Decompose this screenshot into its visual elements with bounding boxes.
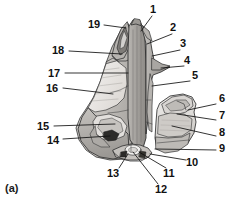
label-number-17: 17	[48, 68, 60, 79]
label-number-19: 19	[88, 19, 100, 30]
label-number-15: 15	[37, 121, 49, 132]
figure-caption: (a)	[5, 182, 18, 194]
leader-line-12	[133, 152, 158, 184]
leader-line-6	[188, 104, 216, 110]
leader-line-14	[63, 136, 110, 139]
leader-line-5	[152, 81, 190, 86]
figure-panel-a: 12345678910111213141516171819 (a)	[0, 0, 239, 201]
leader-lines	[0, 0, 239, 201]
leader-line-1	[141, 16, 152, 31]
leader-line-3	[152, 50, 180, 56]
label-number-9: 9	[219, 143, 225, 154]
leader-line-16	[63, 88, 113, 94]
leader-line-19	[104, 25, 126, 28]
label-number-10: 10	[186, 157, 198, 168]
label-number-7: 7	[219, 110, 225, 121]
label-number-13: 13	[107, 168, 119, 179]
label-number-3: 3	[180, 38, 186, 49]
leader-line-4	[161, 66, 184, 68]
leader-line-13	[119, 154, 128, 168]
leader-line-2	[147, 34, 172, 44]
label-number-12: 12	[155, 184, 167, 195]
leader-line-15	[54, 124, 115, 126]
label-number-2: 2	[170, 22, 176, 33]
label-number-4: 4	[184, 55, 190, 66]
label-number-6: 6	[219, 93, 225, 104]
label-number-14: 14	[47, 135, 59, 146]
label-number-18: 18	[52, 45, 64, 56]
leader-line-18	[69, 51, 122, 54]
label-number-11: 11	[163, 168, 175, 179]
leader-line-10	[150, 154, 186, 160]
label-number-1: 1	[150, 4, 156, 15]
leader-line-9	[155, 149, 216, 150]
label-number-16: 16	[46, 83, 58, 94]
leader-line-7	[177, 114, 216, 120]
leader-line-8	[172, 126, 216, 136]
label-number-5: 5	[192, 70, 198, 81]
label-number-8: 8	[219, 127, 225, 138]
